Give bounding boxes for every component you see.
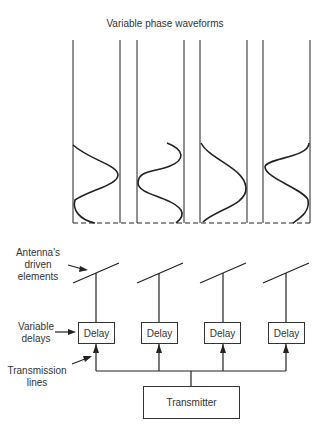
delay-box-4: Delay xyxy=(268,322,305,344)
lines-label-line: lines xyxy=(4,377,70,389)
delay-box-1: Delay xyxy=(78,322,115,344)
delay-box-3: Delay xyxy=(204,322,241,344)
antenna-label-line: Antenna's xyxy=(10,247,66,259)
lines-label-line: Transmission xyxy=(4,365,70,377)
delays-label-line: Variable xyxy=(12,321,60,333)
antenna-label-line: elements xyxy=(10,271,66,283)
antenna-label-line: driven xyxy=(10,259,66,271)
delays-label-line: delays xyxy=(12,333,60,345)
antenna-label: Antenna's driven elements xyxy=(10,247,66,283)
transmitter-box: Transmitter xyxy=(143,386,240,419)
transmission-lines-label: Transmission lines xyxy=(4,365,70,389)
variable-delays-label: Variable delays xyxy=(12,321,60,345)
delay-box-2: Delay xyxy=(141,322,178,344)
